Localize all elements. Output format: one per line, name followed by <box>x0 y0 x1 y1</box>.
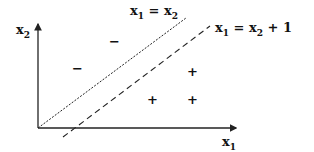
boundary-line-dashed <box>63 26 210 137</box>
negative-point: − <box>109 35 120 48</box>
line-label-dashed: x1 = x2 + 1 <box>215 20 292 38</box>
positive-point: + <box>187 93 198 106</box>
y-axis-label: x2 <box>16 22 30 40</box>
negative-point: − <box>72 62 83 75</box>
x-axis-label: x1 <box>222 134 236 152</box>
line-label-dotted: x1 = x2 <box>130 3 178 21</box>
positive-point: + <box>187 65 198 78</box>
positive-point: + <box>147 93 158 106</box>
